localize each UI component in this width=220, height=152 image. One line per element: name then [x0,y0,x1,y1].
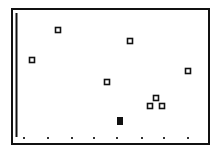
scatter-plot [0,0,220,152]
x-tick-dot [23,137,25,139]
data-point [154,96,159,101]
x-tick-dot [116,137,118,139]
x-tick-dot [47,137,49,139]
plot-frame [12,9,209,144]
data-point [30,58,35,63]
data-points [30,28,191,126]
data-point [148,104,153,109]
data-point [105,80,110,85]
data-point [160,104,165,109]
data-point-filled [117,117,123,125]
x-tick-dot [187,137,189,139]
x-axis-tick-dots [23,137,189,139]
x-tick-dot [141,137,143,139]
x-tick-dot [163,137,165,139]
data-point [56,28,61,33]
x-tick-dot [93,137,95,139]
x-tick-dot [71,137,73,139]
data-point [186,69,191,74]
data-point [128,39,133,44]
